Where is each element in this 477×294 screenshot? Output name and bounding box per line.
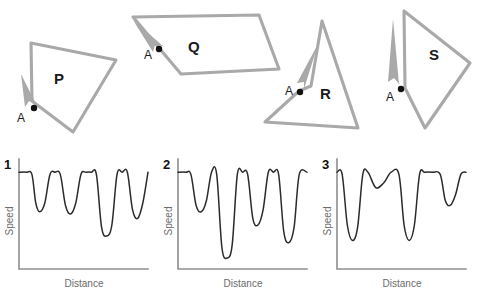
graph-axes-2 bbox=[178, 159, 307, 269]
direction-arrow-s bbox=[388, 19, 399, 84]
shapes-svg: P A Q A R A bbox=[0, 0, 477, 148]
start-point-dot-q bbox=[156, 46, 162, 52]
start-point-dot-p bbox=[31, 105, 37, 111]
shape-group-s[interactable]: S A bbox=[386, 11, 470, 128]
shape-label-r: R bbox=[320, 85, 331, 102]
graph-number-2: 2 bbox=[163, 157, 170, 172]
shape-group-q[interactable]: Q A bbox=[133, 15, 279, 74]
graph-svg-3: 3 Speed Distance bbox=[318, 146, 477, 294]
graph-svg-1: 1 Speed Distance bbox=[0, 146, 159, 294]
figure-canvas: P A Q A R A bbox=[0, 0, 477, 294]
y-axis-label-3: Speed bbox=[322, 207, 333, 236]
start-point-label-q: A bbox=[144, 48, 152, 62]
shape-outline-p bbox=[31, 43, 116, 132]
speed-curve-3 bbox=[337, 169, 466, 241]
y-axis-label-1: Speed bbox=[4, 207, 15, 236]
shape-label-q: Q bbox=[188, 38, 200, 55]
graph-number-1: 1 bbox=[4, 157, 11, 172]
speed-curve-1 bbox=[19, 169, 148, 236]
shape-outline-r bbox=[265, 21, 358, 128]
graphs-row: 1 Speed Distance 2 Speed Distance 3 bbox=[0, 146, 477, 294]
start-point-label-r: A bbox=[285, 84, 293, 98]
x-axis-label-1: Distance bbox=[65, 278, 104, 289]
graph-number-3: 3 bbox=[322, 157, 329, 172]
graph-svg-2: 2 Speed Distance bbox=[159, 146, 318, 294]
graph-axes-3 bbox=[337, 159, 466, 269]
start-point-dot-r bbox=[297, 89, 303, 95]
direction-arrow-p bbox=[21, 74, 36, 107]
shape-label-s: S bbox=[429, 46, 439, 63]
start-point-label-p: A bbox=[17, 111, 25, 125]
shapes-row: P A Q A R A bbox=[0, 0, 477, 148]
speed-curve-2 bbox=[178, 167, 307, 259]
shape-group-p[interactable]: P A bbox=[17, 43, 116, 132]
shape-outline-s bbox=[404, 11, 470, 128]
graph-panel-1[interactable]: 1 Speed Distance bbox=[0, 146, 159, 294]
graph-panel-3[interactable]: 3 Speed Distance bbox=[318, 146, 477, 294]
shape-group-r[interactable]: R A bbox=[265, 21, 358, 128]
y-axis-label-2: Speed bbox=[163, 207, 174, 236]
start-point-label-s: A bbox=[386, 90, 394, 104]
start-point-dot-s bbox=[398, 86, 404, 92]
x-axis-label-2: Distance bbox=[224, 278, 263, 289]
x-axis-label-3: Distance bbox=[383, 278, 422, 289]
shape-label-p: P bbox=[54, 70, 64, 87]
graph-panel-2[interactable]: 2 Speed Distance bbox=[159, 146, 318, 294]
